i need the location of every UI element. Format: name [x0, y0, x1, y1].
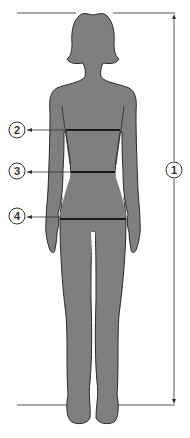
- marker-label-height: 1: [166, 162, 182, 178]
- arrow-right-icon: [27, 215, 32, 219]
- arrow-up-icon: [172, 14, 176, 19]
- arrow-down-icon: [172, 399, 176, 404]
- marker-label-waist: 3: [9, 163, 25, 179]
- arrow-right-icon: [27, 128, 32, 132]
- marker-label-bust: 2: [9, 122, 25, 138]
- arrow-right-icon: [27, 170, 32, 174]
- body-measurement-diagram: [0, 0, 190, 438]
- marker-label-hips: 4: [9, 208, 25, 224]
